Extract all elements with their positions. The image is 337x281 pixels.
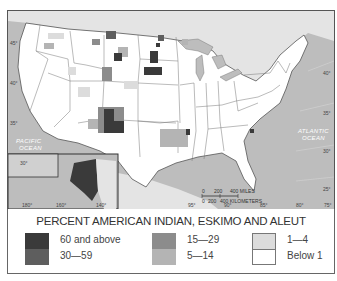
svg-text:400 MILES: 400 MILES	[230, 188, 255, 194]
legend-swatch-5-14	[152, 249, 176, 265]
legend-label: 1—4	[287, 234, 308, 245]
pacific-ocean-label-2: OCEAN	[19, 145, 42, 151]
atlantic-ocean-label-2: OCEAN	[302, 135, 325, 141]
svg-text:0: 0	[202, 188, 205, 194]
hawaii-inset	[8, 154, 58, 177]
lon-label-95: 95°	[188, 202, 196, 208]
legend-label: 30—59	[60, 250, 92, 261]
inset-lon-180: 180°	[22, 202, 32, 208]
legend-swatch-60-above	[25, 233, 49, 249]
legend-label: 60 and above	[60, 234, 121, 245]
legend-swatch-15-29	[152, 233, 176, 249]
lat-label-40: 40°	[10, 80, 18, 86]
atlantic-ocean-label: ATLANTIC	[297, 128, 329, 134]
svg-text:200: 200	[208, 198, 217, 204]
lat-label-30: 30°	[20, 160, 28, 166]
map-frame: 45° 40° 35° 30° 40° 35° 30° 25° 95° 90° …	[7, 10, 335, 210]
svg-text:400 KILOMETERS: 400 KILOMETERS	[220, 198, 263, 204]
lon-label-80: 80°	[296, 202, 304, 208]
svg-text:0: 0	[202, 198, 205, 204]
us-map: 45° 40° 35° 30° 40° 35° 30° 25° 95° 90° …	[8, 11, 334, 209]
legend-title: PERCENT AMERICAN INDIAN, ESKIMO AND ALEU…	[8, 215, 334, 227]
inset-lon-140: 140°	[96, 202, 106, 208]
legend-label: Below 1	[287, 250, 323, 261]
lat-label-35: 35°	[10, 120, 18, 126]
legend-swatch-1-4	[252, 233, 276, 249]
lat-label-right-35: 35°	[323, 110, 331, 116]
legend-swatch-30-59	[25, 249, 49, 265]
legend-label: 15—29	[187, 234, 219, 245]
lat-label-45: 45°	[10, 40, 18, 46]
lat-label-right-25: 25°	[323, 186, 331, 192]
lat-label-right-40: 40°	[323, 70, 331, 76]
inset-lon-160: 160°	[56, 202, 66, 208]
lat-label-right-30: 30°	[323, 148, 331, 154]
pacific-ocean-label: PACIFIC	[16, 138, 42, 144]
legend-label: 5—14	[187, 250, 214, 261]
lon-label-75: 75°	[324, 202, 332, 208]
svg-text:200: 200	[214, 188, 223, 194]
legend-swatch-below-1	[252, 249, 276, 265]
legend: PERCENT AMERICAN INDIAN, ESKIMO AND ALEU…	[7, 209, 335, 274]
